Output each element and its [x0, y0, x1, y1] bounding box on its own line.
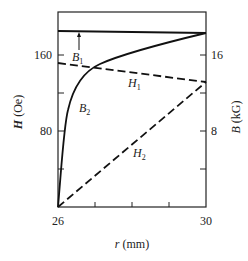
y-left-tick-label-80: 80	[40, 124, 52, 138]
series-b1-line	[58, 31, 206, 33]
label-b1: B1	[72, 50, 83, 66]
y-left-axis-label-var: H	[11, 119, 25, 130]
label-h2: H2	[132, 146, 146, 162]
y-right-axis-label: B(kG)	[229, 100, 243, 133]
y-right-axis-label-unit: (kG)	[229, 100, 243, 123]
y-left-axis-label-unit: (Oe)	[11, 95, 25, 117]
y-right-tick-label-16: 16	[211, 48, 223, 62]
y-right-axis-ticks	[200, 55, 206, 169]
x-axis-ticks	[95, 202, 169, 207]
label-b2: B2	[79, 101, 90, 117]
x-axis-label-unit: (mm)	[123, 237, 150, 251]
y-right-axis-label-var: B	[229, 126, 243, 134]
label-h1: H1	[127, 76, 141, 92]
x-tick-label-26: 26	[52, 214, 64, 228]
y-right-tick-label-8: 8	[211, 124, 217, 138]
arrow-up-icon	[77, 32, 81, 37]
x-axis-label: r(mm)	[115, 237, 149, 251]
x-axis-label-var: r	[115, 237, 120, 251]
y-left-axis-label: H(Oe)	[11, 95, 25, 130]
chart: 26 30 80 160 8 16 r(mm) H(Oe) B(kG) B1 B…	[0, 0, 248, 261]
b1-arrow-annotation	[77, 32, 81, 50]
x-tick-label-30: 30	[200, 214, 212, 228]
y-left-tick-label-160: 160	[34, 48, 52, 62]
